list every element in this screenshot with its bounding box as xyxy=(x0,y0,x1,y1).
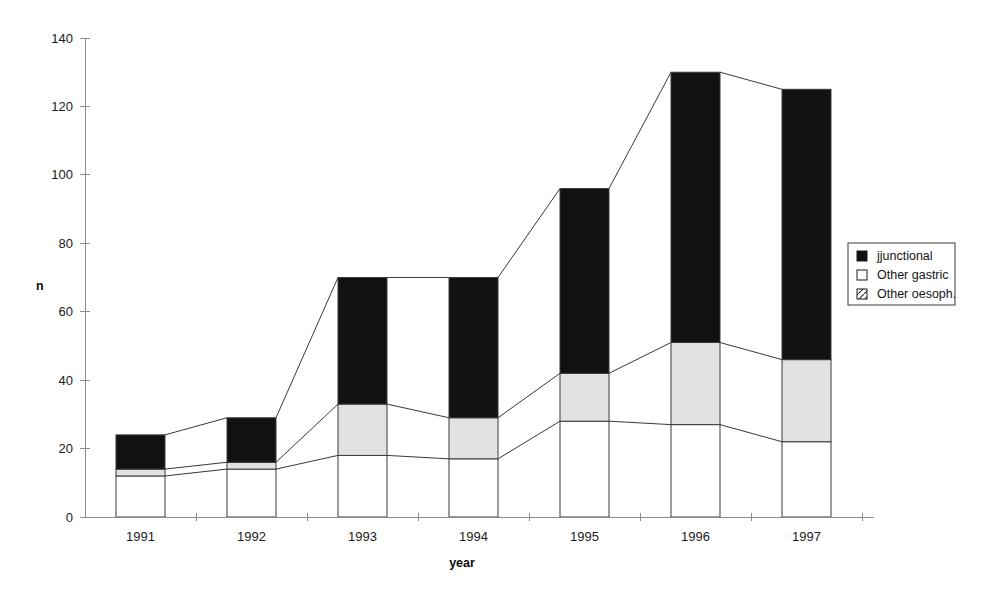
bar-group xyxy=(782,89,831,517)
bar-segment-jjunctional xyxy=(116,435,165,469)
legend-label: Other oesoph. xyxy=(877,287,956,301)
y-tick-label: 40 xyxy=(59,373,73,388)
bar-group xyxy=(671,72,720,517)
bar-group xyxy=(227,418,276,517)
legend-swatch-icon xyxy=(857,251,867,261)
bar-segment-other-oesoph xyxy=(671,425,720,517)
connector-line xyxy=(165,418,227,435)
legend-label: jjunctional xyxy=(876,249,933,263)
y-tick-label: 60 xyxy=(59,304,73,319)
bar-segment-other-gastric xyxy=(338,404,387,455)
bar-segment-jjunctional xyxy=(560,189,609,374)
connector-line xyxy=(609,343,671,374)
chart-figure: 020406080100120140 199119921993199419951… xyxy=(0,0,991,598)
x-axis-tick-labels: 1991199219931994199519961997 xyxy=(126,529,821,544)
legend-swatch-icon xyxy=(857,270,867,280)
connector-line xyxy=(276,455,338,469)
x-tick-label: 1992 xyxy=(237,529,266,544)
x-tick-label: 1994 xyxy=(459,529,488,544)
connector-line xyxy=(165,462,227,469)
bar-segment-other-oesoph xyxy=(449,459,498,517)
y-tick-label: 120 xyxy=(51,99,73,114)
x-tick-label: 1993 xyxy=(348,529,377,544)
stacked-bar-chart: 020406080100120140 199119921993199419951… xyxy=(0,0,991,598)
connector-line xyxy=(165,469,227,476)
connector-line xyxy=(498,189,560,278)
connector-line xyxy=(720,343,782,360)
bar-segment-other-oesoph xyxy=(338,455,387,517)
connector-line xyxy=(498,421,560,459)
x-tick-label: 1995 xyxy=(570,529,599,544)
bar-segment-other-oesoph xyxy=(116,476,165,517)
bar-segment-other-gastric xyxy=(782,360,831,442)
bar-segment-jjunctional xyxy=(449,278,498,418)
connector-line xyxy=(276,404,338,462)
y-tick-label: 80 xyxy=(59,236,73,251)
bar-segment-jjunctional xyxy=(338,278,387,405)
connector-line xyxy=(276,278,338,418)
connector-line xyxy=(609,421,671,424)
bar-segment-other-oesoph xyxy=(782,442,831,517)
y-tick-label: 100 xyxy=(51,167,73,182)
bar-segment-other-gastric xyxy=(449,418,498,459)
bar-group xyxy=(449,278,498,518)
bar-segment-jjunctional xyxy=(671,72,720,342)
y-axis-tick-labels: 020406080100120140 xyxy=(51,31,73,525)
x-tick-label: 1996 xyxy=(681,529,710,544)
x-tick-label: 1991 xyxy=(126,529,155,544)
connector-line xyxy=(387,455,449,458)
y-tick-label: 0 xyxy=(66,510,73,525)
bar-group xyxy=(116,435,165,517)
chart-legend: jjunctionalOther gastricOther oesoph. xyxy=(848,243,956,305)
connector-line xyxy=(387,404,449,418)
bar-group xyxy=(338,278,387,518)
y-tick-label: 20 xyxy=(59,441,73,456)
bar-segment-jjunctional xyxy=(227,418,276,462)
y-axis-title: n xyxy=(36,279,44,293)
connector-line xyxy=(609,72,671,188)
connector-line xyxy=(720,72,782,89)
bar-segment-jjunctional xyxy=(782,89,831,359)
legend-swatch-icon xyxy=(857,289,867,299)
bar-segment-other-oesoph xyxy=(560,421,609,517)
x-axis-title: year xyxy=(449,556,475,570)
bar-segment-other-gastric xyxy=(227,462,276,469)
bar-segment-other-gastric xyxy=(116,469,165,476)
connector-line xyxy=(720,425,782,442)
bar-segment-other-oesoph xyxy=(227,469,276,517)
bars-layer xyxy=(116,72,831,517)
y-tick-label: 140 xyxy=(51,31,73,46)
connector-line xyxy=(498,373,560,417)
legend-label: Other gastric xyxy=(877,268,949,282)
x-tick-label: 1997 xyxy=(792,529,821,544)
bar-segment-other-gastric xyxy=(560,373,609,421)
bar-group xyxy=(560,189,609,517)
bar-segment-other-gastric xyxy=(671,343,720,425)
